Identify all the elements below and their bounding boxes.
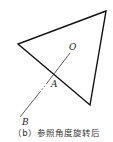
- figure-caption: （b）参照角度旋转后: [0, 126, 113, 138]
- label-o: O: [69, 43, 76, 52]
- ray-a-to-b-dashed: [40, 83, 47, 92]
- label-a: A: [51, 80, 58, 89]
- ray-to-b: [20, 92, 40, 117]
- rotated-triangle-figure: O A B （b）参照角度旋转后: [0, 0, 113, 142]
- triangle-shape: [18, 11, 106, 105]
- diagram-canvas: [0, 0, 113, 142]
